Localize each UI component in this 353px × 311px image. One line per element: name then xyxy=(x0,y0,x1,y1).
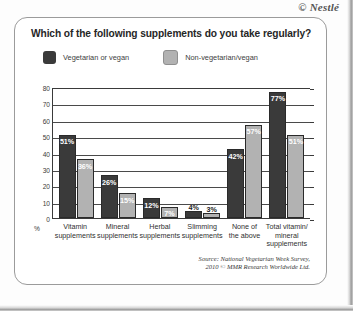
y-axis-tick-80: 80 xyxy=(43,85,50,92)
y-axis-tick-0: 0 xyxy=(46,216,50,223)
bar-value-label: 12% xyxy=(144,201,159,210)
y-tickmark-30 xyxy=(310,171,314,172)
copyright-watermark: © Nestlé xyxy=(298,1,339,13)
x-axis-label-line: supplements xyxy=(266,240,308,249)
x-axis-category-labels: VitaminsupplementsMineralsupplementsHerb… xyxy=(52,223,310,249)
bar[interactable]: 15% xyxy=(119,193,136,218)
y-tickmark-50 xyxy=(310,138,314,139)
x-axis-label-line: supplements xyxy=(96,232,138,241)
bar-value-label: 42% xyxy=(228,152,243,161)
source-line-2: 2010 © MMR Research Worldwide Ltd. xyxy=(199,263,310,272)
y-tickmark-60 xyxy=(310,122,314,123)
x-axis-label: Mineralsupplements xyxy=(96,223,138,249)
y-axis-tick-20: 20 xyxy=(43,183,50,190)
x-axis-label-line: supplements xyxy=(139,232,181,241)
y-axis-tick-10: 10 xyxy=(43,199,50,206)
legend-label-non-vegetarian: Non-vegetarian/vegan xyxy=(185,53,258,62)
bar-group: 4%3% xyxy=(182,89,224,218)
bar-group: 26%15% xyxy=(97,89,139,218)
bar-value-label: 57% xyxy=(246,127,261,136)
bar-value-label: 4% xyxy=(186,203,201,212)
bar[interactable]: 12% xyxy=(143,198,160,218)
legend-item-vegetarian: Vegetarian or vegan xyxy=(43,51,129,64)
scan-edge-bottom xyxy=(0,305,353,311)
y-axis-tick-50: 50 xyxy=(43,134,50,141)
y-axis-tick-70: 70 xyxy=(43,101,50,108)
bar[interactable]: 42% xyxy=(227,149,244,218)
bar[interactable]: 3% xyxy=(203,213,220,218)
chart-source-note: Source: National Vegetarian Week Survey,… xyxy=(199,255,310,272)
y-axis-tick-labels: 01020304050607080 xyxy=(32,88,50,219)
x-axis-label: Vitaminsupplements xyxy=(54,223,96,249)
scan-edge-right xyxy=(347,0,353,311)
legend-item-non-vegetarian: Non-vegetarian/vegan xyxy=(163,50,258,65)
y-axis-tick-40: 40 xyxy=(43,150,50,157)
bar[interactable]: 4% xyxy=(185,211,202,218)
bar-value-label: 51% xyxy=(60,137,75,146)
bar-group: 12%7% xyxy=(139,89,181,218)
bar-value-label: 77% xyxy=(270,94,285,103)
chart-legend: Vegetarian or vegan Non-vegetarian/vegan xyxy=(43,50,258,65)
chart-title: Which of the following supplements do yo… xyxy=(31,28,311,39)
bar[interactable]: 77% xyxy=(269,92,286,218)
x-axis-label-line: the above xyxy=(223,232,265,241)
bar[interactable]: 57% xyxy=(245,125,262,218)
bar[interactable]: 26% xyxy=(101,175,118,218)
bar-groups: 51%36%26%15%12%7%4%3%42%57%77%51% xyxy=(53,89,310,218)
bar-value-label: 15% xyxy=(120,196,135,205)
x-axis-label: Herbalsupplements xyxy=(139,223,181,249)
bar-group: 77%51% xyxy=(266,89,308,218)
bar-group: 51%36% xyxy=(55,89,97,218)
x-axis-label-line: supplements xyxy=(54,232,96,241)
legend-label-vegetarian: Vegetarian or vegan xyxy=(63,53,129,62)
source-line-1: Source: National Vegetarian Week Survey, xyxy=(199,255,310,264)
plot-area: 51%36%26%15%12%7%4%3%42%57%77%51% xyxy=(52,88,310,219)
y-tickmark-10 xyxy=(310,204,314,205)
bar-value-label: 3% xyxy=(204,205,219,214)
legend-swatch-light-icon xyxy=(163,50,178,65)
y-tickmark-40 xyxy=(310,155,314,156)
bar-value-label: 51% xyxy=(288,137,303,146)
y-tickmark-20 xyxy=(310,187,314,188)
x-axis-label-line: supplements xyxy=(181,232,223,241)
y-axis-tick-30: 30 xyxy=(43,166,50,173)
x-axis-label: None ofthe above xyxy=(223,223,265,249)
y-tickmark-80 xyxy=(310,89,314,90)
y-axis-tick-60: 60 xyxy=(43,117,50,124)
x-axis-label: Slimmingsupplements xyxy=(181,223,223,249)
legend-swatch-dark-icon xyxy=(43,51,56,64)
bar[interactable]: 51% xyxy=(287,135,304,219)
plot-wrapper: 01020304050607080 % 51%36%26%15%12%7%4%3… xyxy=(32,88,312,233)
bar-value-label: 36% xyxy=(78,162,93,171)
bar[interactable]: 36% xyxy=(77,159,94,218)
y-tickmark-70 xyxy=(310,105,314,106)
y-tickmark-0 xyxy=(310,220,314,221)
x-axis-label: Total vitamin/mineralsupplements xyxy=(266,223,308,249)
page-background: © Nestlé Which of the following suppleme… xyxy=(0,0,353,311)
bar[interactable]: 7% xyxy=(161,207,178,218)
bar[interactable]: 51% xyxy=(59,135,76,219)
bar-value-label: 7% xyxy=(162,209,177,218)
bar-value-label: 26% xyxy=(102,178,117,187)
y-axis-unit-label: % xyxy=(34,225,40,232)
bar-group: 42%57% xyxy=(224,89,266,218)
chart-panel: Which of the following supplements do yo… xyxy=(14,17,327,285)
